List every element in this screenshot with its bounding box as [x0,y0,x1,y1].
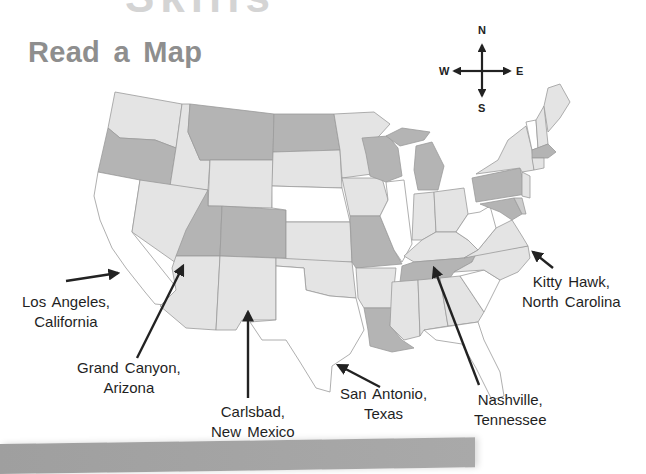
state-maine [544,84,570,132]
state-indiana [412,192,436,240]
state-wyoming [208,160,273,208]
label-kitty-hawk: Kitty Hawk, North Carolina [522,272,621,312]
state-kansas [286,222,352,262]
state-iowa [342,178,388,216]
state-north-dakota [273,114,340,152]
state-arkansas [356,268,396,308]
compass-east: E [516,65,523,77]
arrow-kitty-hawk [533,252,553,268]
decorative-bottom-bar [0,437,475,474]
state-florida [424,322,504,400]
state-montana [188,104,274,160]
state-colorado [220,206,286,258]
compass-west: W [439,65,449,77]
compass-arrows-icon [420,18,520,118]
state-new-mexico [216,256,276,330]
state-michigan [414,142,444,190]
state-new-york [476,126,534,174]
state-south-dakota [272,150,342,188]
state-connecticut [532,158,544,170]
compass-rose: N S W E [420,18,520,118]
label-los-angeles: Los Angeles, California [22,292,110,332]
label-nashville: Nashville, Tennessee [474,390,547,430]
compass-north: N [478,24,486,36]
label-grand-canyon: Grand Canyon, Arizona [77,358,181,398]
state-new-jersey [522,172,530,198]
label-san-antonio: San Antonio, Texas [340,384,427,424]
state-mississippi [390,280,420,340]
arrow-los-angeles [66,273,118,281]
compass-south: S [478,102,485,114]
label-carlsbad: Carlsbad, New Mexico [211,402,295,442]
